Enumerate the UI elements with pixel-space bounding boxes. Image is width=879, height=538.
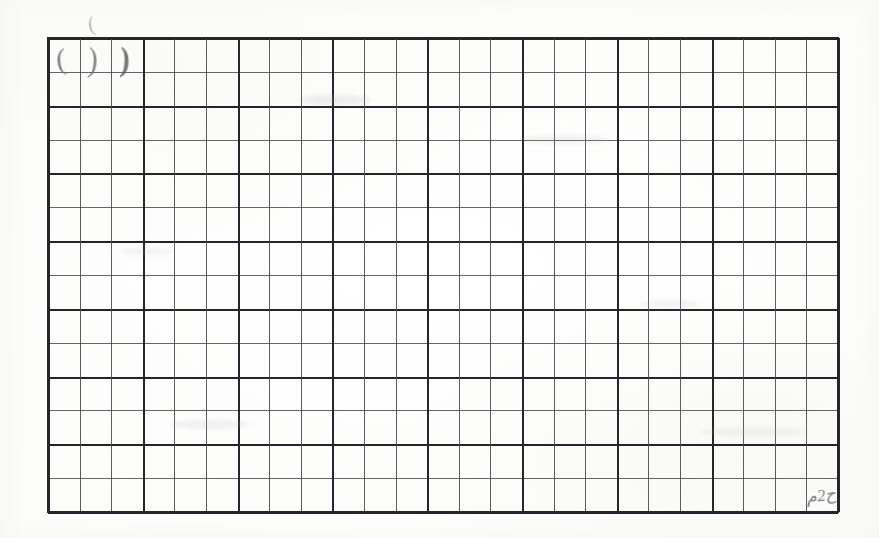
grid-rule-vertical [522,38,524,512]
grid-rule-vertical [680,38,681,512]
grid-rule-horizontal [48,444,838,446]
grid-rule-vertical [648,38,649,512]
grid-rule-vertical [838,38,840,512]
grid-rule-horizontal [48,140,838,141]
grid-rule-vertical [806,38,807,512]
grid-rule-vertical [143,38,145,512]
grid-rule-horizontal [48,275,838,276]
grid-rule-vertical [364,38,365,512]
grid-rule-vertical [332,38,334,512]
grid-rule-horizontal [48,309,838,311]
grid-rule-horizontal [48,377,838,379]
scanned-page: ())(ح2م [0,0,879,538]
grid-rule-horizontal [48,410,838,411]
grid-rule-horizontal [48,207,838,208]
grid-rule-horizontal [48,343,838,344]
grid-rule-vertical [269,38,270,512]
grid-rule-vertical [490,38,491,512]
grid-rule-vertical [585,38,586,512]
grid-rule-vertical [427,38,429,512]
grid-rule-vertical [396,38,397,512]
grid-rule-vertical [174,38,175,512]
ruled-grid [48,38,838,512]
grid-rule-horizontal [48,512,838,514]
grid-rule-horizontal [48,241,838,243]
pencil-mark-above-grid: ( [86,14,96,35]
grid-rule-vertical [206,38,207,512]
grid-rule-vertical [459,38,460,512]
grid-rule-vertical [48,38,50,512]
grid-rule-vertical [301,38,302,512]
grid-rule-vertical [775,38,776,512]
grid-rule-horizontal [48,106,838,108]
grid-rule-vertical [617,38,619,512]
grid-rule-vertical [111,38,112,512]
grid-rule-vertical [80,38,81,512]
grid-rule-vertical [238,38,240,512]
grid-rule-vertical [554,38,555,512]
grid-rule-horizontal [48,38,838,40]
grid-rule-horizontal [48,72,838,73]
grid-rule-vertical [712,38,714,512]
grid-rule-horizontal [48,173,838,175]
grid-rule-vertical [743,38,744,512]
grid-rule-horizontal [48,478,838,479]
